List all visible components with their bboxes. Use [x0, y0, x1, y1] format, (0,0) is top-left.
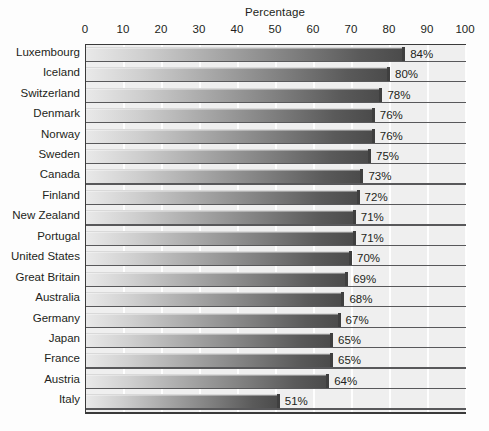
row-separator: [86, 143, 466, 144]
bar-end-cap: [372, 129, 375, 143]
bar[interactable]: [86, 129, 375, 144]
bar-value-label: 78%: [387, 89, 410, 101]
category-label-austria: Austria: [0, 373, 80, 385]
bar-value-label: 65%: [338, 354, 361, 366]
row-separator: [86, 347, 466, 348]
bar[interactable]: [86, 149, 371, 164]
category-label-norway: Norway: [0, 128, 80, 140]
chart-title: Percentage: [85, 6, 465, 18]
x-tick-label: 80: [383, 23, 396, 35]
bar-end-cap: [349, 251, 352, 265]
bar-end-cap: [368, 149, 371, 163]
row-separator: [86, 163, 466, 164]
bar-row[interactable]: 71%: [86, 210, 466, 224]
x-tick-label: 70: [345, 23, 358, 35]
row-separator: [86, 183, 466, 184]
bar-row[interactable]: 65%: [86, 353, 466, 367]
bar-value-label: 73%: [368, 170, 391, 182]
category-label-new-zealand: New Zealand: [0, 209, 80, 221]
bar[interactable]: [86, 108, 375, 123]
category-label-canada: Canada: [0, 168, 80, 180]
bar-row[interactable]: 69%: [86, 272, 466, 286]
bar[interactable]: [86, 210, 356, 225]
bar-end-cap: [338, 313, 341, 327]
bar-value-label: 71%: [361, 211, 384, 223]
bar-row[interactable]: 51%: [86, 394, 466, 408]
bar-value-label: 51%: [285, 395, 308, 407]
bar-row[interactable]: 78%: [86, 88, 466, 102]
row-separator: [86, 245, 466, 246]
bar-value-label: 80%: [395, 68, 418, 80]
x-tick-label: 30: [193, 23, 206, 35]
bar-end-cap: [360, 169, 363, 183]
category-label-finland: Finland: [0, 189, 80, 201]
x-tick-label: 10: [117, 23, 130, 35]
row-separator: [86, 388, 466, 389]
bar-row[interactable]: 84%: [86, 47, 466, 61]
category-label-united-states: United States: [0, 250, 80, 262]
row-separator: [86, 81, 466, 82]
bar-value-label: 65%: [338, 334, 361, 346]
bar-value-label: 69%: [353, 273, 376, 285]
bar-row[interactable]: 73%: [86, 169, 466, 183]
bar-end-cap: [277, 394, 280, 408]
row-separator: [86, 306, 466, 307]
category-label-australia: Australia: [0, 291, 80, 303]
bar[interactable]: [86, 394, 280, 409]
row-separator: [86, 102, 466, 103]
bar[interactable]: [86, 272, 348, 287]
x-tick-label: 60: [307, 23, 320, 35]
bar-row[interactable]: 70%: [86, 251, 466, 265]
bar-row[interactable]: 64%: [86, 374, 466, 388]
bar-end-cap: [341, 292, 344, 306]
bar-end-cap: [330, 333, 333, 347]
bar-rows: 84%80%78%76%76%75%73%72%71%71%70%69%68%6…: [86, 45, 466, 413]
category-label-sweden: Sweden: [0, 148, 80, 160]
bar-chart: Percentage 0102030405060708090100 Luxemb…: [0, 0, 489, 431]
bar[interactable]: [86, 353, 333, 368]
category-label-france: France: [0, 352, 80, 364]
bar-row[interactable]: 68%: [86, 292, 466, 306]
row-separator: [86, 122, 466, 123]
x-tick-label: 90: [421, 23, 434, 35]
bar-value-label: 84%: [410, 48, 433, 60]
category-label-iceland: Iceland: [0, 66, 80, 78]
row-separator: [86, 286, 466, 287]
bar[interactable]: [86, 231, 356, 246]
x-tick-label: 100: [455, 23, 474, 35]
bar-value-label: 76%: [380, 130, 403, 142]
bar[interactable]: [86, 88, 382, 103]
bar-end-cap: [326, 374, 329, 388]
category-label-portugal: Portugal: [0, 230, 80, 242]
category-label-luxembourg: Luxembourg: [0, 46, 80, 58]
bar-end-cap: [353, 210, 356, 224]
category-label-denmark: Denmark: [0, 107, 80, 119]
x-axis-tick-labels: 0102030405060708090100: [0, 23, 489, 39]
bar[interactable]: [86, 374, 329, 389]
bar-end-cap: [330, 353, 333, 367]
bar[interactable]: [86, 47, 405, 62]
bar-row[interactable]: 76%: [86, 108, 466, 122]
bar[interactable]: [86, 292, 344, 307]
x-tick-label: 40: [231, 23, 244, 35]
bar[interactable]: [86, 190, 360, 205]
bar-row[interactable]: 76%: [86, 129, 466, 143]
bar-row[interactable]: 71%: [86, 231, 466, 245]
bar-end-cap: [345, 272, 348, 286]
bar-row[interactable]: 72%: [86, 190, 466, 204]
bar-row[interactable]: 75%: [86, 149, 466, 163]
x-tick-label: 0: [82, 23, 88, 35]
x-tick-label: 50: [269, 23, 282, 35]
bar-row[interactable]: 80%: [86, 67, 466, 81]
bar[interactable]: [86, 313, 341, 328]
bar[interactable]: [86, 333, 333, 348]
category-label-great-britain: Great Britain: [0, 271, 80, 283]
bar-end-cap: [357, 190, 360, 204]
bar[interactable]: [86, 67, 390, 82]
bar-row[interactable]: 67%: [86, 313, 466, 327]
bar-value-label: 75%: [376, 150, 399, 162]
bar[interactable]: [86, 169, 363, 184]
bar[interactable]: [86, 251, 352, 266]
row-separator: [86, 224, 466, 225]
bar-row[interactable]: 65%: [86, 333, 466, 347]
